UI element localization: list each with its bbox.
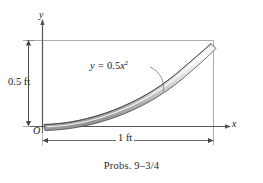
equation-prefix: y = xyxy=(90,60,107,71)
x-axis-label: x xyxy=(232,119,236,129)
parabolic-rod-diagram xyxy=(0,0,263,183)
curve-equation-label: y = 0.5x2 xyxy=(90,61,128,72)
equation-coefficient: 0.5 xyxy=(107,60,120,71)
vertical-dimension-label: 0.5 ft xyxy=(8,77,30,88)
axis-arrow-tips xyxy=(40,19,231,129)
parabolic-rod xyxy=(44,44,216,131)
horizontal-dimension-label: 1 ft xyxy=(116,133,134,144)
figure-container: y x O 0.5 ft 1 ft y = 0.5x2 Probs. 9–3/4 xyxy=(0,0,263,183)
origin-label: O xyxy=(33,126,40,136)
y-axis-label: y xyxy=(39,10,43,20)
equation-exponent: 2 xyxy=(125,59,128,66)
figure-caption: Probs. 9–3/4 xyxy=(0,160,263,171)
